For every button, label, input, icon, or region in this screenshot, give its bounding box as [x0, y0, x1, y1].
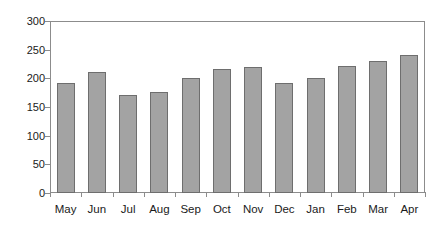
x-axis-tick-label: May: [50, 203, 81, 216]
x-axis-tick-label: Dec: [269, 203, 300, 216]
bar: [213, 69, 231, 193]
bar: [88, 72, 106, 193]
bars-layer: [0, 0, 447, 227]
x-axis-tick-label: Mar: [363, 203, 394, 216]
bar: [244, 67, 262, 193]
bar: [182, 78, 200, 193]
x-axis-tick-label: Apr: [394, 203, 425, 216]
x-axis-tick-label: Jun: [81, 203, 112, 216]
x-axis-tick-label: Oct: [206, 203, 237, 216]
bar: [369, 61, 387, 193]
bar: [400, 55, 418, 193]
bar: [57, 83, 75, 193]
bar: [275, 83, 293, 193]
bar: [119, 95, 137, 193]
bar-chart: 050100150200250300 MayJunJulAugSepOctNov…: [0, 0, 447, 227]
x-axis-tick-label: Sep: [175, 203, 206, 216]
bar: [307, 78, 325, 193]
x-axis-tick-label: Jul: [113, 203, 144, 216]
x-axis-tick-label: Feb: [331, 203, 362, 216]
x-axis-tick-label: Nov: [238, 203, 269, 216]
x-axis-labels: MayJunJulAugSepOctNovDecJanFebMarApr: [0, 203, 447, 223]
bar: [338, 66, 356, 193]
x-axis-tick-label: Aug: [144, 203, 175, 216]
x-axis-tick-label: Jan: [300, 203, 331, 216]
bar: [150, 92, 168, 193]
